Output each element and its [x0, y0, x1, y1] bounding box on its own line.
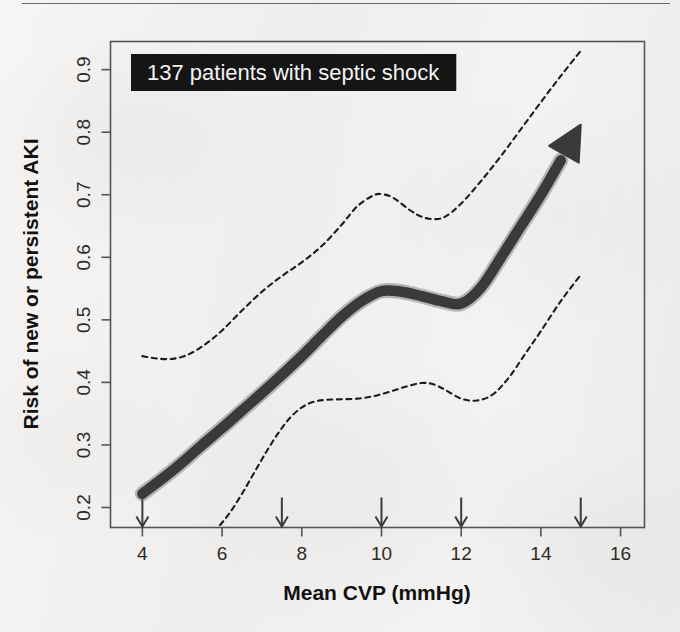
- x-tick-label: 10: [371, 543, 392, 564]
- y-tick-label: 0.4: [74, 369, 95, 396]
- y-tick-label: 0.7: [74, 182, 95, 208]
- x-tick-label: 6: [217, 543, 228, 564]
- knot-arrow: [276, 498, 288, 527]
- annotation-text: 137 patients with septic shock: [147, 60, 440, 85]
- x-tick-label: 14: [530, 543, 552, 564]
- y-tick-label: 0.8: [74, 119, 95, 145]
- x-tick-label: 16: [610, 543, 631, 564]
- y-tick-label: 0.3: [74, 432, 95, 458]
- x-axis-title: Mean CVP (mmHg): [283, 581, 470, 604]
- annotation-label: 137 patients with septic shock: [131, 54, 456, 91]
- x-tick-label: 8: [296, 543, 307, 564]
- predicted-risk-trend-line: [142, 160, 560, 493]
- y-tick-label: 0.9: [74, 56, 95, 82]
- y-axis: 0.20.30.40.50.60.70.80.9: [74, 56, 111, 520]
- knot-arrow: [375, 498, 387, 527]
- knot-arrow-markers: [136, 498, 586, 527]
- knot-arrow: [575, 498, 587, 527]
- x-tick-label: 4: [137, 543, 148, 564]
- knot-arrow: [136, 498, 148, 527]
- figure-page: 0.20.30.40.50.60.70.80.9 46810121416 Mea…: [0, 0, 680, 632]
- y-tick-label: 0.5: [74, 307, 95, 333]
- y-axis-title: Risk of new or persistent AKI: [19, 139, 42, 430]
- y-tick-label: 0.6: [74, 244, 95, 270]
- risk-vs-cvp-chart: 0.20.30.40.50.60.70.80.9 46810121416 Mea…: [0, 0, 680, 632]
- x-axis: 46810121416: [137, 528, 631, 564]
- upper-confidence-band: [142, 51, 580, 359]
- y-tick-label: 0.2: [74, 494, 95, 520]
- knot-arrow: [455, 498, 467, 527]
- lower-confidence-band: [220, 275, 581, 525]
- x-tick-label: 12: [451, 543, 472, 564]
